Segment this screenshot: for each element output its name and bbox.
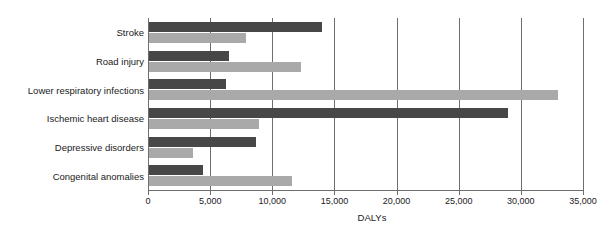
x-tick: [334, 190, 335, 195]
bar-0: [148, 22, 322, 32]
x-tick: [148, 190, 149, 195]
bar-0: [148, 79, 226, 89]
bar-1: [148, 90, 558, 100]
gridline: [272, 18, 273, 190]
bar-0: [148, 51, 229, 61]
category-label: Congenital anomalies: [4, 170, 144, 181]
gridline: [334, 18, 335, 190]
x-axis-line: [148, 190, 584, 191]
bar-0: [148, 108, 508, 118]
bar-1: [148, 33, 246, 43]
category-label: Depressive disorders: [4, 142, 144, 153]
category-axis-labels: StrokeRoad injuryLower respiratory infec…: [0, 18, 144, 190]
x-tick-label: 15,000: [321, 196, 349, 207]
x-tick: [272, 190, 273, 195]
gridline: [459, 18, 460, 190]
x-tick: [210, 190, 211, 195]
gridline: [583, 18, 584, 190]
x-tick: [583, 190, 584, 195]
x-axis-title: DALYs: [0, 212, 604, 223]
category-label: Lower respiratory infections: [4, 84, 144, 95]
bar-1: [148, 62, 301, 72]
gridline: [521, 18, 522, 190]
category-label: Ischemic heart disease: [4, 113, 144, 124]
bar-1: [148, 176, 292, 186]
plot-area: [148, 18, 583, 190]
x-tick-label: 5,000: [199, 196, 222, 207]
y-axis-line: [148, 18, 149, 190]
bar-1: [148, 148, 193, 158]
bar-1: [148, 119, 259, 129]
bar-0: [148, 137, 256, 147]
x-tick-label: 25,000: [445, 196, 473, 207]
x-tick: [459, 190, 460, 195]
x-tick: [397, 190, 398, 195]
x-tick-label: 20,000: [383, 196, 411, 207]
gridline: [210, 18, 211, 190]
category-label: Stroke: [4, 27, 144, 38]
x-tick-label: 35,000: [569, 196, 597, 207]
category-label: Road injury: [4, 56, 144, 67]
x-axis-title-text: DALYs: [358, 212, 387, 223]
bar-0: [148, 165, 203, 175]
dalys-grouped-bar-chart: StrokeRoad injuryLower respiratory infec…: [0, 0, 604, 251]
x-tick-label: 0: [145, 196, 150, 207]
x-tick-label: 10,000: [259, 196, 287, 207]
gridline: [397, 18, 398, 190]
x-tick: [521, 190, 522, 195]
x-tick-label: 30,000: [507, 196, 535, 207]
